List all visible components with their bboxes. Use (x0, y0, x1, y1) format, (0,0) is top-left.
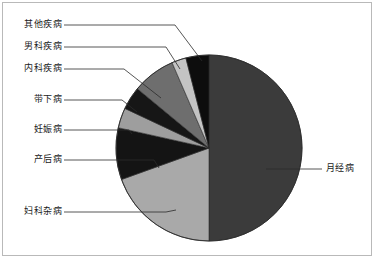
pie-label-menstrual-disease: 月经病 (326, 163, 376, 174)
leader-line-andrology-diseases (64, 47, 180, 69)
pie-slice (209, 55, 302, 241)
pie-label-pregnancy-disease: 妊娠病 (0, 124, 62, 135)
pie-label-postpartum-disease: 产后病 (0, 154, 62, 165)
leader-line-other-diseases (64, 25, 202, 61)
pie-label-leukorrhea-disease: 带下病 (0, 94, 62, 105)
chart-page: 其他疾病 男科疾病 内科疾病 带下病 妊娠病 产后病 妇科杂病 月经病 (0, 0, 376, 260)
pie-label-other-diseases: 其他疾病 (0, 19, 62, 30)
pie-label-andrology-diseases: 男科疾病 (0, 41, 62, 52)
pie-label-gynecological-misc-diseases: 妇科杂病 (0, 206, 62, 217)
pie-slices-group (116, 55, 302, 241)
pie-label-internal-medicine-diseases: 内科疾病 (0, 63, 62, 74)
